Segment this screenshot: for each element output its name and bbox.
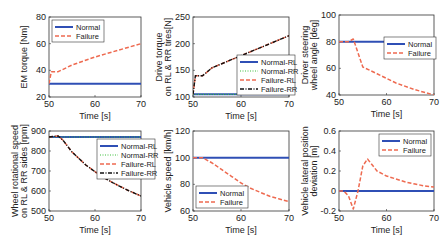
legend: NormalFailure: [384, 37, 436, 59]
y-tick-label: 40: [36, 65, 46, 75]
y-tick-label: 250: [175, 12, 190, 22]
subplot-5: 5060706080100120Time [s]Vehicle speed [k…: [163, 126, 294, 235]
x-tick-label: 60: [381, 213, 391, 223]
y-tick-label: 700: [31, 166, 46, 176]
x-tick-label: 60: [381, 97, 391, 107]
legend: NormalFailure: [52, 20, 104, 42]
y-tick-label: 150: [175, 65, 190, 75]
y-tick-label: 900: [31, 126, 46, 136]
legend-label: Normal-RR: [121, 151, 159, 160]
x-tick-label: 60: [236, 213, 246, 223]
y-tick-label: 80: [36, 12, 46, 22]
legend-label: Normal-RR: [261, 67, 299, 76]
legend: Normal-RLNormal-RRFailure-RLFailure-RR: [237, 55, 299, 95]
y-axis-label: Vehicle speed [km/h]: [163, 129, 173, 212]
x-tick-label: 70: [136, 213, 146, 223]
x-axis-label: Time [s]: [225, 225, 257, 235]
legend-label: Normal: [403, 137, 428, 146]
legend-label: Failure: [220, 198, 243, 207]
y-tick-label: 600: [31, 186, 46, 196]
y-tick-label: 60: [36, 39, 46, 49]
x-axis-label: Time [s]: [225, 111, 257, 121]
y-tick-label: 800: [31, 146, 46, 156]
legend-label: Normal-RL: [121, 142, 157, 151]
x-tick-label: 70: [136, 99, 146, 109]
y-tick-label: 100: [175, 92, 190, 102]
y-tick-label: 500: [31, 206, 46, 216]
legend-label: Normal-RL: [261, 58, 297, 67]
x-axis-label: Time [s]: [371, 109, 403, 119]
x-axis-label: Time [s]: [371, 225, 403, 235]
legend-label: Failure: [408, 49, 431, 58]
legend-label: Failure: [403, 146, 426, 155]
y-tick-label: 100: [175, 153, 190, 163]
y-tick-label: 0.6: [323, 126, 336, 136]
legend: NormalFailure: [196, 186, 248, 208]
legend-label: Failure-RL: [261, 76, 296, 85]
x-axis-label: Time [s]: [79, 225, 111, 235]
y-tick-label: 40: [326, 90, 336, 100]
x-tick-label: 70: [429, 213, 439, 223]
y-tick-label: 80: [180, 179, 190, 189]
legend-label: Failure-RL: [121, 160, 156, 169]
x-tick-label: 60: [90, 213, 100, 223]
legend-label: Normal: [76, 23, 101, 32]
y-tick-label: 0.4: [323, 146, 336, 156]
subplot-6: 506070-0.200.20.40.6Time [s]Vehicle late…: [300, 126, 439, 235]
y-tick-label: 120: [175, 126, 190, 136]
y-axis-label: EM torque [Nm]: [19, 25, 29, 88]
legend-label: Normal: [220, 189, 245, 198]
y-axis-label: wheel angle [deg]: [309, 20, 319, 92]
y-tick-label: 60: [326, 63, 336, 73]
y-tick-label: -0.2: [320, 206, 336, 216]
y-tick-label: 20: [36, 92, 46, 102]
legend-label: Failure-RR: [261, 85, 298, 94]
x-tick-label: 70: [284, 99, 294, 109]
subplot-3: 506070406080100Time [s]Driver steeringwh…: [300, 10, 439, 119]
subplot-4: 506070500600700800900Time [s]Wheel rotat…: [10, 124, 159, 235]
y-tick-label: 100: [321, 10, 336, 20]
legend-label: Failure: [76, 32, 99, 41]
x-tick-label: 70: [284, 213, 294, 223]
y-tick-label: 0.2: [323, 166, 336, 176]
y-tick-label: 60: [180, 206, 190, 216]
y-tick-label: 80: [326, 37, 336, 47]
legend-label: Normal: [408, 40, 433, 49]
legend: NormalFailure: [379, 134, 431, 156]
subplot-1: 50607020406080Time [s]EM torque [Nm]Norm…: [19, 12, 146, 121]
subplot-2: 506070100150200250Time [s]Drive torqueon…: [154, 12, 299, 121]
y-axis-label: on RL & RR sides [rpm]: [19, 124, 29, 218]
legend: Normal-RLNormal-RRFailure-RLFailure-RR: [97, 139, 159, 179]
y-tick-label: 0: [331, 186, 336, 196]
y-axis-label: on RL & RR tires[N]: [163, 18, 173, 97]
x-tick-label: 60: [236, 99, 246, 109]
legend-label: Failure-RR: [121, 169, 158, 178]
y-tick-label: 200: [175, 39, 190, 49]
x-axis-label: Time [s]: [79, 111, 111, 121]
figure: 50607020406080Time [s]EM torque [Nm]Norm…: [0, 0, 447, 242]
y-axis-label: deviation [m]: [309, 145, 319, 196]
x-tick-label: 60: [90, 99, 100, 109]
x-tick-label: 70: [429, 97, 439, 107]
